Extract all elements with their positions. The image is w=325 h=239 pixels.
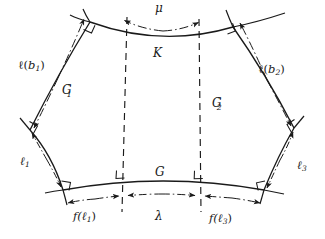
label-ell-b1-var: b: [28, 58, 35, 72]
label-ell-3-sub: 3: [302, 164, 307, 173]
measure-line-lambda-right: [162, 194, 195, 196]
label-ell-b1: ℓ(b1): [18, 60, 45, 73]
measure-line-fl1-left: [68, 199, 95, 203]
label-f-ell-3-base: f(ℓ: [209, 211, 223, 225]
figure-canvas: [0, 0, 325, 239]
label-f-ell-1: f(ℓ1): [73, 211, 96, 224]
label-f-ell-3-close: ): [228, 211, 233, 225]
measure-line-l1-up: [32, 133, 47, 160]
label-G1-sub: 1: [67, 91, 72, 99]
curve-G-extension-right: [264, 190, 284, 194]
label-G2-double-prime: G″2: [212, 97, 222, 109]
measure-line-fl3-left: [205, 196, 232, 198]
side-upper-right-extension-top: [226, 10, 233, 27]
label-ell-b1-close: ): [40, 58, 45, 72]
label-ell-b2-close: ): [280, 62, 285, 76]
side-lower-left-extension-top: [20, 118, 30, 130]
measure-line-l1-down: [47, 160, 61, 187]
geometry-figure: μ K ℓ(b1) ℓ(b2) G″1 G″2 ℓ1 ℓ3 G f(ℓ1) λ …: [0, 0, 325, 239]
measure-line-mu-visible: [125, 21, 164, 32]
label-ell-b1-open: ℓ(: [18, 58, 28, 72]
label-ell-1: ℓ1: [20, 156, 30, 169]
label-f-ell-1-close: ): [92, 209, 97, 223]
label-G2-sub: 2: [217, 104, 222, 112]
curve-K-extension-right: [233, 13, 285, 27]
measure-line-fl3-right: [232, 198, 260, 203]
label-K: K: [153, 47, 162, 59]
dashed-vertical-right: [199, 19, 201, 212]
right-angle-mark-bottom-dashed-right: [194, 171, 203, 179]
curve-G: [63, 181, 264, 190]
label-G: G: [155, 166, 165, 178]
label-G1-double-prime: G″1: [62, 84, 72, 96]
label-ell-b2-var: b: [268, 62, 275, 76]
label-ell-b2-open: ℓ(: [258, 62, 268, 76]
measure-line-l3-down: [267, 160, 280, 188]
measure-line-lb2-down: [267, 80, 291, 126]
measure-line-fl1-right: [95, 196, 119, 199]
curve-G-extension-left: [45, 190, 63, 193]
measure-line-mu-visible-right: [163, 23, 199, 32]
side-lower-right: [264, 128, 294, 190]
side-lower-right-extension-top: [294, 116, 304, 128]
side-lower-left-extension-bottom: [63, 190, 67, 205]
measure-line-lambda-left: [128, 194, 162, 196]
measure-line-l3-up: [280, 132, 293, 160]
label-mu: μ: [155, 2, 163, 14]
measure-line-lb1-down: [34, 78, 58, 128]
label-ell-b2: ℓ(b2): [258, 64, 285, 77]
label-ell-1-sub: 1: [25, 160, 30, 169]
label-ell-3: ℓ3: [297, 160, 307, 173]
side-upper-left: [30, 22, 90, 130]
label-lambda: λ: [155, 210, 163, 222]
label-f-ell-1-base: f(ℓ: [73, 209, 87, 223]
label-f-ell-3: f(ℓ3): [209, 213, 232, 226]
curve-K: [90, 22, 233, 36]
side-lower-right-extension-bottom: [260, 190, 264, 204]
